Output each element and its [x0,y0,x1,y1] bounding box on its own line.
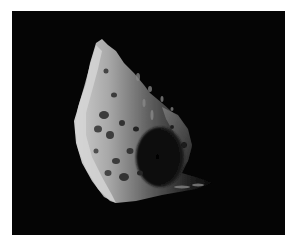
moon-body [74,39,212,203]
space-photo-frame [12,11,285,235]
moon-illustration [12,11,285,235]
large-crater-basin [136,127,184,187]
